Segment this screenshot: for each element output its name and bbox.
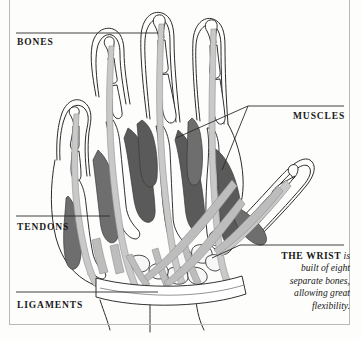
- wrist-caption-lead: THE WRIST: [281, 250, 341, 261]
- hand-anatomy-figure: .sk{fill:none;stroke:#2b2b2b;stroke-widt…: [0, 0, 361, 341]
- label-ligaments: LIGAMENTS: [17, 300, 83, 310]
- label-muscles: MUSCLES: [293, 111, 345, 121]
- label-tendons: TENDONS: [17, 222, 69, 232]
- label-bones: BONES: [17, 37, 54, 47]
- wrist-caption: THE WRIST is built of eight separate bon…: [268, 250, 350, 312]
